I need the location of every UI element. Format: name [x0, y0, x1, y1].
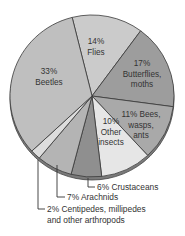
pie-chart: 14%Flies17%Butterflies,moths11% Bees,was… — [0, 0, 185, 236]
external-label-centipedes-millipedes-and-other-arthropods: 2% Centipedes, millipedesand other arthr… — [47, 204, 146, 225]
external-label-arachnids: 7% Arachnids — [67, 192, 118, 202]
leader-line-centipedes-millipedes-and-other-arthropods — [38, 160, 45, 209]
external-label-crustaceans: 6% Crustaceans — [97, 182, 158, 192]
slice-label-flies: 14%Flies — [87, 37, 104, 57]
